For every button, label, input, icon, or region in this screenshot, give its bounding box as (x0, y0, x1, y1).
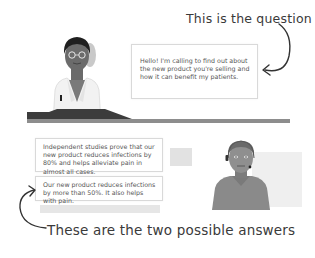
blurred-desk-strip (40, 205, 160, 213)
question-bubble: Hello! I'm calling to find out about the… (131, 44, 258, 99)
answer-option-1[interactable]: Independent studies prove that our new p… (35, 138, 163, 172)
answer-option-1-text: Independent studies prove that our new p… (43, 143, 155, 175)
floor-line (27, 119, 290, 123)
scenario-scene: Hello! I'm calling to find out about the… (0, 0, 315, 258)
curved-arrow-to-question-icon (255, 22, 295, 82)
answer-option-2[interactable]: Our new product reduces infections by mo… (35, 176, 163, 201)
answers-annotation: These are the two possible answers (47, 222, 295, 238)
answer-option-2-text: Our new product reduces infections by mo… (43, 181, 155, 204)
question-text: Hello! I'm calling to find out about the… (140, 57, 249, 80)
sales-rep-avatar-icon (210, 138, 272, 210)
office-background-screen (170, 148, 192, 166)
